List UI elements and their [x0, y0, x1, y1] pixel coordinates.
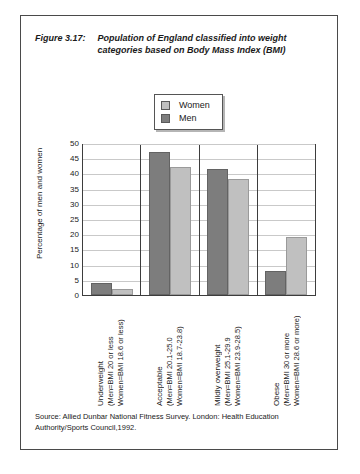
x-tick-label: (Men=BMI 20.1-25.0 — [165, 306, 175, 406]
chart-plot-area: Percentage of men and women 051015202530… — [21, 144, 339, 304]
x-tick-label: Women=BMI 28.6 or more) — [292, 306, 302, 406]
x-axis-labels: Underweight(Men=BMI 20 or lessWomen=BMI … — [82, 306, 316, 406]
bar-group — [258, 145, 315, 295]
bar-group — [83, 145, 141, 295]
y-tick-label: 10 — [70, 262, 79, 270]
x-tick-label: (Men=BMI 30 or more — [282, 306, 292, 406]
bar-group — [141, 145, 199, 295]
y-tick-label: 25 — [70, 216, 79, 224]
bar-women — [112, 289, 133, 295]
bar-women — [170, 167, 191, 295]
page-title: Population of England classified into we… — [98, 32, 287, 56]
legend-label-women: Women — [179, 99, 210, 112]
x-tick-label: Acceptable — [155, 306, 165, 406]
x-label-group: Obese(Men=BMI 30 or moreWomen=BMI 28.6 o… — [258, 306, 317, 406]
x-label-group: Acceptable(Men=BMI 20.1-25.0Women=BMI 18… — [141, 306, 200, 406]
y-tick-label: 5 — [75, 277, 79, 285]
legend-label-men: Men — [179, 112, 197, 125]
y-axis-ticks: 05101520253035404550 — [61, 144, 79, 296]
bar-groups — [83, 145, 315, 295]
x-tick-label: (Men=BMI 25.1-29.9 — [223, 306, 233, 406]
x-tick-label: Women=BMI 23.9-28.5) — [233, 306, 243, 406]
x-tick-label: Women=BMI 18.7-23.8) — [175, 306, 185, 406]
bar-men — [149, 152, 170, 295]
x-tick-label: Obese — [272, 306, 282, 406]
x-tick-label: (Men=BMI 20 or less — [106, 306, 116, 406]
figure-number: Figure 3.17: — [35, 32, 86, 44]
y-tick-label: 45 — [70, 155, 79, 163]
y-tick-label: 20 — [70, 231, 79, 239]
y-tick-label: 35 — [70, 186, 79, 194]
bar-men — [265, 271, 286, 295]
source-line1: Source: Allied Dunbar National Fitness S… — [35, 412, 279, 421]
figure-title-line2: categories based on Body Mass Index (BMI… — [98, 44, 287, 56]
legend-swatch-women-icon — [161, 101, 170, 110]
x-tick-label: Underweight — [96, 306, 106, 406]
legend-item-women: Women — [161, 99, 210, 112]
legend-swatch-men-icon — [161, 114, 170, 123]
x-label-group: Underweight(Men=BMI 20 or lessWomen=BMI … — [82, 306, 141, 406]
figure-title-line1: Population of England classified into we… — [98, 32, 287, 44]
x-tick-label: Women=BMI 18.6 or less) — [116, 306, 126, 406]
y-tick-label: 0 — [75, 292, 79, 300]
x-label-group: Mildly overweight(Men=BMI 25.1-29.9Women… — [199, 306, 258, 406]
plot-frame — [82, 144, 316, 296]
source-note: Source: Allied Dunbar National Fitness S… — [35, 412, 323, 433]
bar-group — [200, 145, 258, 295]
y-tick-label: 50 — [70, 140, 79, 148]
y-tick-label: 40 — [70, 170, 79, 178]
legend-item-men: Men — [161, 112, 210, 125]
bar-men — [207, 169, 228, 295]
y-axis-title: Percentage of men and women — [35, 139, 44, 269]
bar-women — [286, 237, 307, 295]
x-tick-label: Mildly overweight — [213, 306, 223, 406]
figure-title-row: Figure 3.17: Population of England class… — [35, 32, 327, 56]
source-line2: Authority/Sports Council,1992. — [35, 423, 136, 432]
y-tick-label: 30 — [70, 201, 79, 209]
chart-legend: Women Men — [154, 94, 223, 130]
bar-men — [91, 283, 112, 295]
figure-container: Figure 3.17: Population of England class… — [20, 15, 338, 450]
bar-women — [228, 179, 249, 295]
y-tick-label: 15 — [70, 246, 79, 254]
